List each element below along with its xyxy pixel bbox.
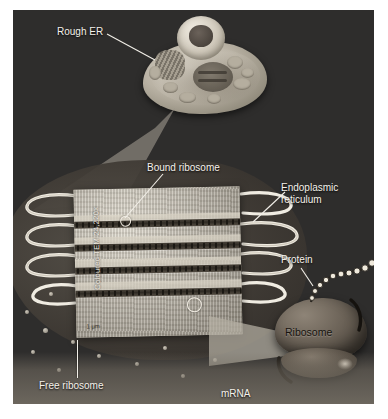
nucleus xyxy=(177,16,225,60)
label-er-line1: Endoplasmic xyxy=(281,182,338,193)
label-mrna: mRNA xyxy=(221,388,250,400)
leader-bound-ribosome xyxy=(121,172,165,220)
label-protein: Protein xyxy=(281,254,313,266)
label-free-ribosome: Free ribosome xyxy=(39,380,103,392)
leader-protein xyxy=(299,266,321,288)
label-ribosome: Ribosome xyxy=(285,326,332,338)
figure-panel: Rough ER xyxy=(13,10,374,404)
leader-free-ribosome xyxy=(77,340,78,378)
nucleolus xyxy=(189,25,213,47)
leader-rough-er xyxy=(105,30,161,64)
label-rough-er: Rough ER xyxy=(57,26,103,38)
label-endoplasmic-reticulum: Endoplasmic reticulum xyxy=(281,182,365,206)
golgi-apparatus xyxy=(193,62,233,92)
floor-shadow-band xyxy=(13,352,374,404)
micrograph-scale-text: 1 µm xyxy=(86,323,100,329)
leader-endoplasmic-reticulum xyxy=(249,190,289,224)
